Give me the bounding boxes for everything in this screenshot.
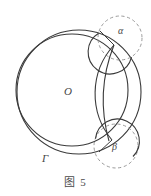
circle-large-right [17,30,141,154]
label-center-O: O [64,86,72,97]
circle-alpha-dashed [98,16,142,60]
label-circle-alpha: α [118,26,123,36]
geometry-drawing [0,0,151,196]
label-circle-beta: β [112,142,117,152]
lens-arc-left [95,45,114,140]
figure-container: O Γ α β 图 5 [0,0,151,196]
lens-arc-inner [103,45,114,141]
figure-caption: 图 5 [0,173,151,189]
label-circle-gamma: Γ [42,153,48,164]
